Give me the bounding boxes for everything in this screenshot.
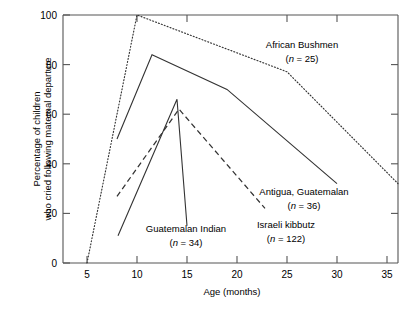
x-tick-label-15: 15 [181,269,193,280]
n-value: = 25) [294,53,319,64]
annotation-african-bushmen-n: (n = 25) [285,53,318,64]
annotation-antigua-label: Antigua, Guatemalan [259,186,348,197]
x-axis-title: Age (months) [203,286,260,297]
annotation-antigua-n: (n = 36) [287,200,320,211]
annotation-israeli-label: Israeli kibbutz [257,219,315,230]
y-axis-title-line2: who cried following maternal departure [42,57,53,221]
x-tick-label-20: 20 [231,269,243,280]
n-value: = 36) [296,200,321,211]
n-value: = 122) [275,233,305,244]
annotation-guatemalan-label: Guatemalan Indian [146,223,226,234]
x-tick-label-35: 35 [381,269,393,280]
x-tick-label-5: 5 [84,269,90,280]
y-tick-label-0: 0 [51,258,57,269]
annotation-guatemalan-n: (n = 34) [169,237,202,248]
y-axis-title-line1: Percentage of children [31,91,42,186]
n-value: = 34) [178,237,203,248]
x-tick-label-25: 25 [281,269,293,280]
chart-figure: 100 80 60 40 20 0 5 10 15 20 25 30 35 Ag… [0,0,420,315]
y-tick-label-100: 100 [40,10,57,21]
x-tick-label-30: 30 [331,269,343,280]
x-tick-label-10: 10 [131,269,143,280]
annotation-israeli-n: (n = 122) [267,233,305,244]
annotation-african-bushmen-label: African Bushmen [266,39,338,50]
